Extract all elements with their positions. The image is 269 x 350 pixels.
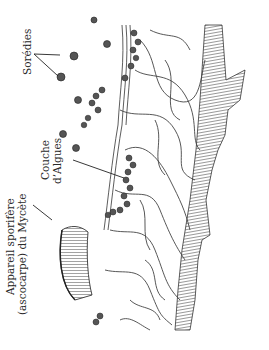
lichen-illustration: Sorédies Couche d’Algues Appareil sporif… bbox=[0, 0, 269, 350]
soredia bbox=[57, 17, 111, 152]
label-algae-layer-line2: d’Algues bbox=[51, 138, 63, 184]
lower-cortex bbox=[175, 25, 245, 330]
upper-cortex bbox=[104, 25, 131, 230]
label-soredia: Sorédies bbox=[21, 29, 33, 75]
ascocarp bbox=[60, 226, 92, 300]
leader-lines bbox=[33, 54, 124, 220]
algal-layer bbox=[81, 30, 141, 325]
label-ascocarp-line1: Appareil sporifère bbox=[4, 198, 16, 295]
label-ascocarp-line2: (ascocarpe) du Mycète bbox=[16, 193, 28, 315]
label-algae-layer-line1: Couche bbox=[39, 140, 51, 180]
